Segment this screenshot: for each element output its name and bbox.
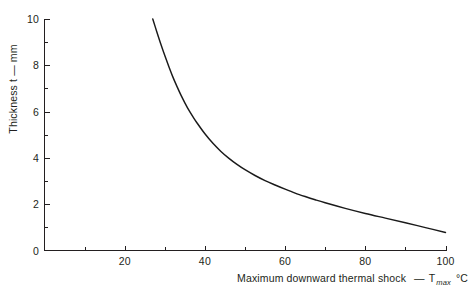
x-tick-label: 20 bbox=[119, 255, 131, 267]
x-tick-label: 40 bbox=[199, 255, 211, 267]
x-axis-title-main: Maximum downward thermal shock bbox=[237, 272, 406, 284]
y-tick-label: 6 bbox=[18, 106, 39, 118]
x-axis-title-dash: — bbox=[414, 272, 425, 284]
y-axis-title: Thickness t — mm bbox=[7, 29, 19, 149]
y-tick-label: 2 bbox=[18, 198, 39, 210]
y-axis-ticks bbox=[45, 20, 50, 228]
x-axis-ticks bbox=[86, 246, 447, 251]
x-axis-title: Maximum downward thermal shock—Tmax°C bbox=[237, 272, 468, 287]
y-tick-label: 0 bbox=[18, 245, 39, 257]
y-tick-label: 10 bbox=[18, 13, 39, 25]
data-curve-line bbox=[153, 19, 446, 232]
plot-area bbox=[0, 0, 469, 294]
y-tick-label: 4 bbox=[18, 152, 39, 164]
x-tick-label: 60 bbox=[279, 255, 291, 267]
x-tick-label: 80 bbox=[359, 255, 371, 267]
chart-figure: 20406080100 0246810 Maximum downward the… bbox=[0, 0, 469, 294]
x-axis-title-unit: °C bbox=[456, 272, 468, 284]
y-tick-label: 8 bbox=[18, 59, 39, 71]
x-axis-title-subscript: max bbox=[435, 278, 452, 287]
x-tick-label: 100 bbox=[436, 255, 454, 267]
